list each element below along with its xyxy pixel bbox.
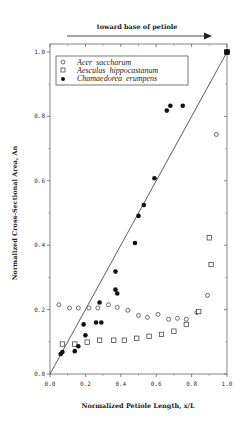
filled-circle-marker xyxy=(115,291,120,296)
filled-circle-marker xyxy=(81,322,86,327)
scatter-chart: toward base of petiole 0.00.20.40.60.81.… xyxy=(0,0,242,425)
open-square-marker xyxy=(85,340,89,344)
open-circle-marker xyxy=(184,317,188,321)
x-tick-label: 1.0 xyxy=(222,380,233,387)
filled-circle-marker xyxy=(152,176,157,181)
filled-circle-marker xyxy=(99,320,104,325)
open-circle-marker xyxy=(57,303,61,307)
legend: Acer saccharum Aesculus hippocastanum Ch… xyxy=(56,56,188,85)
open-square-marker xyxy=(97,338,101,342)
open-square-marker xyxy=(112,338,116,342)
tick-labels: 0.00.20.40.60.81.00.00.20.40.60.81.0 xyxy=(34,48,233,387)
open-circle-marker xyxy=(76,306,80,310)
legend-label: Chamaedorea erumpens xyxy=(77,74,157,83)
open-square-marker xyxy=(147,334,151,338)
open-circle-marker xyxy=(126,308,130,312)
plot-frame xyxy=(50,44,227,374)
y-axis-title: Normalized Cross-Sectional Area, An xyxy=(11,145,19,280)
filled-circle-marker xyxy=(136,214,141,219)
filled-circle-marker xyxy=(94,320,99,325)
open-circle-marker xyxy=(96,306,100,310)
open-circle-marker xyxy=(106,303,110,307)
open-square-marker xyxy=(207,236,211,240)
x-tick-label: 0.6 xyxy=(151,380,162,387)
x-tick-label: 0.8 xyxy=(186,380,197,387)
open-circle-marker xyxy=(115,305,119,309)
filled-circle-marker xyxy=(180,103,185,108)
open-circle-marker xyxy=(87,306,91,310)
y-tick-label: 0.2 xyxy=(34,306,45,313)
x-tick-label: 0.0 xyxy=(45,380,56,387)
open-circle-marker xyxy=(214,132,218,136)
open-square-icon xyxy=(61,68,65,72)
annotation-text: toward base of petiole xyxy=(97,23,178,31)
open-circle-marker xyxy=(137,313,141,317)
data-points xyxy=(57,50,230,357)
y-tick-label: 0.8 xyxy=(34,112,45,119)
y-tick-label: 0.6 xyxy=(34,177,45,184)
filled-circle-marker xyxy=(133,241,138,246)
filled-circle-marker xyxy=(83,333,88,338)
reference-line xyxy=(50,52,227,374)
open-square-marker xyxy=(122,338,126,342)
filled-circle-marker xyxy=(60,350,65,355)
x-tick-label: 0.2 xyxy=(80,380,91,387)
x-axis-title: Normalized Petiole Length, x/L xyxy=(82,402,195,410)
y-tick-label: 0.0 xyxy=(34,370,45,377)
open-square-marker xyxy=(209,262,213,266)
open-square-marker xyxy=(60,342,64,346)
open-circle-icon xyxy=(61,60,65,64)
open-circle-marker xyxy=(175,316,179,320)
direction-annotation: toward base of petiole xyxy=(67,23,212,40)
arrow-head-icon xyxy=(204,33,212,40)
filled-circle-marker xyxy=(97,300,102,305)
axis-ticks xyxy=(47,44,227,377)
open-circle-marker xyxy=(67,306,71,310)
open-square-marker xyxy=(135,336,139,340)
open-square-marker xyxy=(184,322,188,326)
filled-circle-marker xyxy=(165,108,170,113)
y-tick-label: 1.0 xyxy=(34,48,45,55)
filled-circle-marker xyxy=(76,344,81,349)
open-circle-marker xyxy=(145,315,149,319)
filled-circle-icon xyxy=(61,77,65,81)
filled-circle-marker xyxy=(142,203,147,208)
y-tick-label: 0.4 xyxy=(34,241,45,248)
open-square-marker xyxy=(172,329,176,333)
x-tick-label: 0.4 xyxy=(115,380,126,387)
open-square-marker xyxy=(196,309,200,313)
open-circle-marker xyxy=(167,317,171,321)
open-square-marker xyxy=(159,332,163,336)
filled-circle-marker xyxy=(113,269,118,274)
filled-circle-marker xyxy=(168,103,173,108)
filled-circle-marker xyxy=(72,349,77,354)
open-circle-marker xyxy=(206,293,210,297)
endpoint-marker xyxy=(225,50,230,55)
open-circle-marker xyxy=(156,312,160,316)
